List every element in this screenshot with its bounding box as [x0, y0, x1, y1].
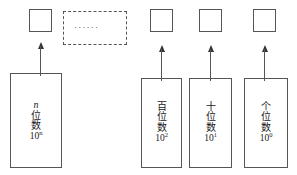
arrow-ones-shaft — [264, 49, 265, 81]
place-box-nth-power: 10n — [30, 132, 43, 142]
place-box-ones-power-base: 10 — [260, 133, 270, 143]
place-box-tens-power-exponent: 1 — [214, 131, 217, 138]
digit-slot-tens[interactable] — [199, 9, 222, 32]
place-box-tens[interactable]: 十位数101 — [189, 78, 232, 168]
place-box-tens-power-base: 10 — [204, 133, 214, 143]
place-box-hundreds-power-exponent: 2 — [165, 131, 168, 138]
place-box-ones[interactable]: 个位数100 — [244, 78, 288, 168]
digit-slot-n[interactable] — [29, 9, 52, 32]
arrow-hundreds-shaft — [161, 49, 162, 81]
place-box-ones-power-exponent: 0 — [269, 131, 272, 138]
digit-slot-ones[interactable] — [253, 9, 276, 32]
place-box-tens-power: 101 — [204, 134, 217, 144]
arrow-tens-up-arrow-icon — [210, 45, 211, 81]
arrow-hundreds-up-arrow-icon — [161, 45, 162, 81]
place-box-hundreds-power: 102 — [155, 134, 168, 144]
place-box-ones-power: 100 — [260, 134, 273, 144]
place-box-nth-char-0: n — [34, 99, 39, 111]
place-box-hundreds[interactable]: 百位数102 — [141, 78, 182, 168]
place-value-diagram: ······n位数10n百位数102十位数101个位数100 — [0, 0, 297, 175]
place-box-ones-label: 个位数100 — [260, 102, 273, 144]
place-box-nth[interactable]: n位数10n — [10, 73, 62, 168]
place-box-tens-label: 十位数101 — [204, 102, 217, 144]
place-box-nth-label: n位数10n — [30, 99, 43, 143]
place-box-nth-power-base: 10 — [30, 131, 40, 141]
arrow-nth-up-arrow-icon — [40, 42, 41, 76]
arrow-ones-up-arrow-icon — [264, 45, 265, 81]
place-box-hundreds-power-base: 10 — [155, 133, 165, 143]
arrow-tens-shaft — [210, 49, 211, 81]
arrow-nth-shaft — [40, 46, 41, 76]
ellipsis-dots: ······ — [64, 23, 99, 32]
ellipsis-slot-box[interactable]: ······ — [63, 11, 127, 45]
place-box-hundreds-label: 百位数102 — [155, 102, 168, 144]
digit-slot-hundreds[interactable] — [150, 9, 173, 32]
place-box-nth-power-exponent: n — [39, 129, 42, 136]
